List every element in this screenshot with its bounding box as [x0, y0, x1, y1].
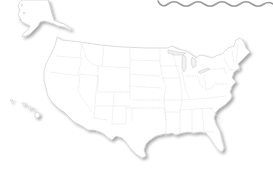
lake-michigan: [182, 55, 186, 72]
us-outline-map: [0, 0, 273, 183]
alaska-region: [18, 0, 72, 37]
hawaii-region: [10, 100, 40, 118]
contiguous-us-region: [44, 37, 250, 158]
wavy-line-top-right: [158, 1, 273, 6]
